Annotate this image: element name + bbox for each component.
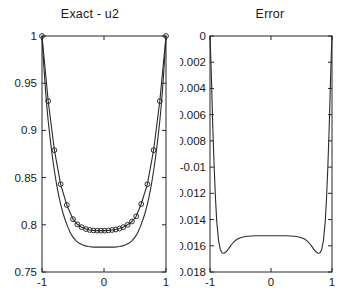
x-tick-label: 1	[329, 276, 335, 288]
x-tick-label: -1	[205, 276, 215, 288]
axis-frame	[42, 36, 166, 272]
y-tick-label: 0.9	[21, 124, 37, 136]
y-tick-label: -0.012	[180, 187, 206, 199]
axis-frame	[210, 36, 332, 272]
y-tick-label: 0.85	[15, 172, 37, 184]
data-series-line	[42, 36, 166, 247]
y-tick-label: -0.014	[180, 214, 207, 226]
y-tick-label: -0.018	[180, 266, 206, 278]
y-tick-label: -0.004	[180, 82, 207, 94]
figure-canvas: Exact - u2 0.750.80.850.90.951-101 Error…	[0, 0, 360, 306]
y-tick-label: -0.016	[180, 240, 206, 252]
plot-panel-exact-u2: Exact - u2 0.750.80.850.90.951-101	[0, 0, 180, 306]
y-tick-label: -0.01	[180, 161, 206, 173]
x-tick-label: 0	[268, 276, 274, 288]
y-tick-label: 0.75	[15, 266, 37, 278]
y-tick-label: -0.002	[180, 56, 206, 68]
x-tick-label: -1	[37, 276, 47, 288]
y-tick-label: 0.95	[15, 77, 37, 89]
y-tick-label: -0.008	[180, 135, 206, 147]
x-tick-label: 1	[163, 276, 169, 288]
data-series-line	[42, 36, 166, 231]
plot-area-error: -0.018-0.016-0.014-0.012-0.01-0.008-0.00…	[180, 0, 360, 306]
y-tick-label: -0.006	[180, 109, 206, 121]
plot-area-exact-u2: 0.750.80.850.90.951-101	[0, 0, 180, 306]
y-tick-label: 0	[200, 30, 206, 42]
plot-panel-error: Error -0.018-0.016-0.014-0.012-0.01-0.00…	[180, 0, 360, 306]
y-tick-label: 0.8	[21, 219, 37, 231]
data-series-line	[210, 36, 332, 253]
y-tick-label: 1	[31, 30, 37, 42]
x-tick-label: 0	[101, 276, 107, 288]
